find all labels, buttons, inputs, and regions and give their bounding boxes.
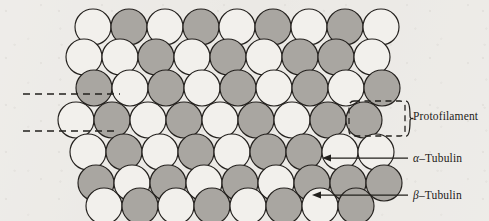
beta-tubulin-subunit: [122, 188, 158, 221]
alpha-tubulin-subunit: [302, 188, 338, 221]
alpha-tubulin-subunit: [102, 39, 138, 75]
beta-tubulin-subunit: [148, 70, 184, 106]
protofilament-row: [70, 134, 394, 170]
beta-tubulin-label: β–Tubulin: [413, 190, 462, 202]
beta-tubulin-subunit: [194, 188, 230, 221]
alpha-tubulin-subunit: [354, 39, 390, 75]
beta-tubulin-subunit: [292, 70, 328, 106]
alpha-tubulin-subunit: [358, 134, 394, 170]
beta-name: Tubulin: [425, 189, 462, 201]
alpha-tubulin-subunit: [274, 102, 310, 138]
beta-tubulin-subunit: [338, 188, 374, 221]
beta-tubulin-subunit: [166, 102, 202, 138]
alpha-tubulin-subunit: [58, 102, 94, 138]
beta-tubulin-subunit: [346, 102, 382, 138]
beta-tubulin-subunit: [238, 102, 274, 138]
beta-tubulin-subunit: [366, 165, 402, 201]
protofilament-row: [76, 70, 400, 106]
alpha-tubulin-subunit: [66, 39, 102, 75]
beta-tubulin-subunit: [364, 70, 400, 106]
alpha-tubulin-subunit: [112, 70, 148, 106]
alpha-tubulin-subunit: [70, 134, 106, 170]
alpha-tubulin-subunit: [86, 188, 122, 221]
alpha-tubulin-subunit: [202, 102, 238, 138]
beta-tubulin-subunit: [282, 39, 318, 75]
beta-tubulin-subunit: [220, 70, 256, 106]
protofilament-row: [58, 102, 382, 138]
microtubule-diagram-figure: Protofilament α–Tubulin β–Tubulin: [0, 0, 489, 221]
beta-tubulin-subunit: [286, 134, 322, 170]
beta-tubulin-subunit: [94, 102, 130, 138]
alpha-tubulin-label: α–Tubulin: [413, 153, 462, 165]
beta-tubulin-subunit: [76, 70, 112, 106]
alpha-tubulin-subunit: [174, 39, 210, 75]
alpha-tubulin-subunit: [142, 134, 178, 170]
alpha-tubulin-subunit: [184, 70, 220, 106]
beta-tubulin-subunit: [178, 134, 214, 170]
beta-tubulin-subunit: [210, 39, 246, 75]
beta-tubulin-subunit: [106, 134, 142, 170]
alpha-name: Tubulin: [425, 152, 462, 164]
subunit-group: [58, 9, 402, 221]
beta-tubulin-subunit: [310, 102, 346, 138]
beta-tubulin-subunit: [318, 39, 354, 75]
alpha-tubulin-subunit: [158, 188, 194, 221]
protofilament-label: Protofilament: [413, 111, 478, 123]
protofilament-row: [66, 39, 390, 75]
alpha-tubulin-subunit: [130, 102, 166, 138]
alpha-tubulin-subunit: [214, 134, 250, 170]
alpha-tubulin-subunit: [246, 39, 282, 75]
alpha-tubulin-subunit: [256, 70, 292, 106]
beta-tubulin-subunit: [250, 134, 286, 170]
alpha-tubulin-subunit: [328, 70, 364, 106]
alpha-tubulin-subunit: [322, 134, 358, 170]
alpha-tubulin-subunit: [230, 188, 266, 221]
beta-tubulin-subunit: [138, 39, 174, 75]
beta-tubulin-subunit: [266, 188, 302, 221]
